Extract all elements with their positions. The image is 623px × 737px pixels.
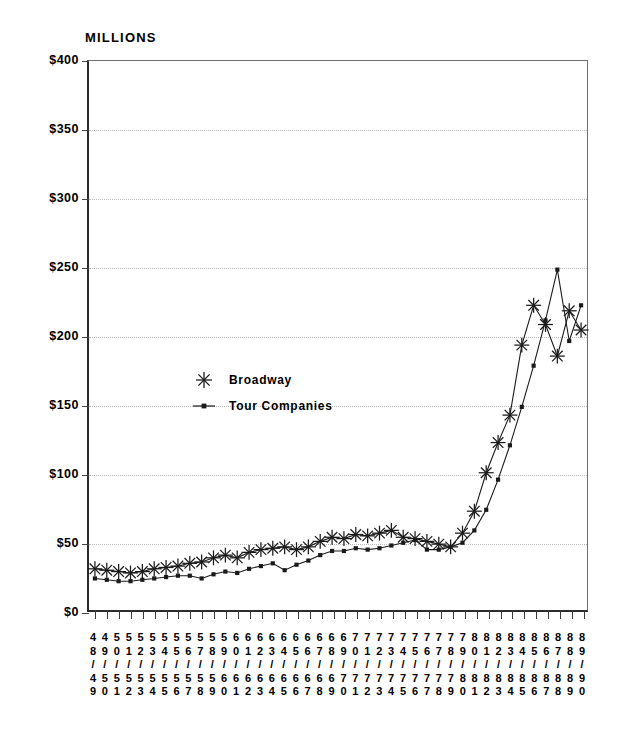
data-point-marker [419,534,434,549]
y-axis-label: $0 [25,605,79,619]
x-axis-tick [417,610,418,619]
data-point-marker [206,550,221,565]
x-axis-label: 63/64 [266,631,278,699]
data-point-marker [413,538,417,542]
data-point-marker [128,579,132,583]
data-point-marker [372,526,387,541]
data-point-marker [354,546,358,550]
x-axis-label: 53/54 [147,631,159,699]
x-axis-label: 69/70 [337,631,349,699]
data-point-marker [550,349,565,364]
data-point-marker [325,530,340,545]
data-point-marker [147,561,162,576]
x-axis-label: 66/67 [302,631,314,699]
data-point-marker [271,561,275,565]
y-axis-label: $250 [25,260,79,274]
y-axis-tick [82,544,89,545]
x-axis-tick [286,610,287,619]
y-axis-tick [82,475,89,476]
x-axis-tick [572,610,573,619]
data-point-marker [460,541,464,545]
data-point-marker [294,563,298,567]
units-label: MILLIONS [85,30,157,45]
x-axis-tick [501,610,502,619]
data-point-marker [105,578,109,582]
data-point-marker [318,553,322,557]
square-dot-marker-icon [185,395,223,417]
y-axis-label: $50 [25,536,79,550]
x-axis-tick [465,610,466,619]
x-axis-tick [322,610,323,619]
x-axis-label: 55/56 [170,631,182,699]
data-point-marker [508,443,512,447]
data-point-marker [99,563,114,578]
x-axis-label: 48/49 [87,631,99,699]
x-axis-tick [202,610,203,619]
x-axis-tick [357,610,358,619]
x-axis-tick [298,610,299,619]
x-axis-label: 87/88 [552,631,564,699]
x-axis-label: 52/53 [135,631,147,699]
asterisk-marker-icon [185,369,223,391]
x-axis-tick [405,610,406,619]
y-axis-label: $150 [25,398,79,412]
x-axis-label: 54/55 [159,631,171,699]
x-axis-tick [477,610,478,619]
x-axis-tick [131,610,132,619]
x-axis-tick [226,610,227,619]
data-point-marker [543,318,547,322]
data-point-marker [170,559,185,574]
y-axis-label: $400 [25,53,79,67]
legend-label-tour-companies: Tour Companies [223,399,333,413]
legend-item-tour-companies: Tour Companies [185,393,365,419]
data-point-marker [366,548,370,552]
data-point-marker [484,508,488,512]
data-point-marker [277,539,292,554]
data-point-marker [211,572,215,576]
data-point-marker [117,579,121,583]
x-axis-tick [560,610,561,619]
x-axis-label: 76/77 [421,631,433,699]
data-point-marker [342,549,346,553]
x-axis-label: 61/62 [242,631,254,699]
x-axis-label: 51/52 [123,631,135,699]
data-point-marker [164,575,168,579]
data-point-marker [182,556,197,571]
x-axis-label: 81/82 [481,631,493,699]
data-point-marker [555,268,559,272]
x-axis-tick [429,610,430,619]
data-point-marker [93,576,97,580]
y-axis-tick [82,406,89,407]
data-point-marker [532,364,536,368]
x-axis-label: 57/58 [194,631,206,699]
data-point-marker [87,561,102,576]
y-axis-label: $100 [25,467,79,481]
data-point-marker [348,527,363,542]
x-axis-label: 68/69 [326,631,338,699]
chart-page: MILLIONS $0$50$100$150$200$250$300$350$4… [0,0,623,737]
data-point-marker [449,545,453,549]
data-point-marker [360,528,375,543]
x-axis-label: 75/76 [409,631,421,699]
data-point-marker [574,323,589,338]
x-axis-tick [524,610,525,619]
data-point-marker [389,543,393,547]
y-axis-tick [82,199,89,200]
y-axis-tick [82,268,89,269]
y-axis-label: $350 [25,122,79,136]
data-point-marker [496,478,500,482]
x-axis-label: 70/71 [349,631,361,699]
data-point-marker [283,568,287,572]
x-axis-label: 58/59 [206,631,218,699]
data-point-marker [253,542,268,557]
x-axis-label: 73/74 [385,631,397,699]
x-axis-label: 72/73 [373,631,385,699]
data-point-marker [491,435,506,450]
data-point-marker [336,531,351,546]
x-axis-label: 62/63 [254,631,266,699]
x-axis-tick [489,610,490,619]
data-point-marker [514,338,529,353]
data-point-marker [123,565,138,580]
x-axis-label: 60/61 [230,631,242,699]
x-axis-label: 74/75 [397,631,409,699]
